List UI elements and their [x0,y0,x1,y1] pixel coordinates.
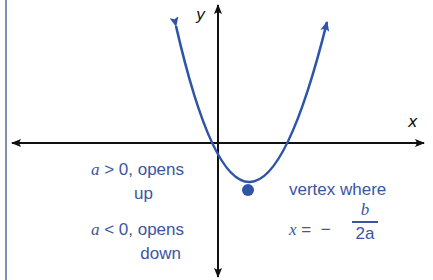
condition-opens-up: a > 0, opens up [91,158,184,206]
parabola-curve [176,22,327,182]
fraction-bar [352,221,378,223]
vertex-fraction: b 2a [352,200,378,244]
vertex-formula: x = − [289,220,331,240]
x-axis-label: x [408,112,417,131]
vertex-point [242,184,254,196]
parabola-diagram: y x a > 0, opens up a < 0, opens down ve… [0,0,433,280]
fraction-numerator: b [352,200,378,220]
condition-opens-down: a < 0, opens down [91,218,184,266]
vertex-caption: vertex where [289,180,386,200]
y-axis-label: y [196,5,205,24]
fraction-denominator: 2a [352,224,378,244]
